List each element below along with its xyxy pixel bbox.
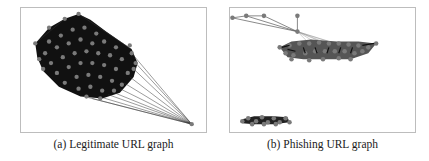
- phishing-graph-panel: [229, 7, 416, 133]
- legitimate-graph-panel: [20, 7, 207, 133]
- caption-phishing: (b) Phishing URL graph: [229, 138, 416, 150]
- legitimate-url-graph: [21, 8, 206, 132]
- phishing-url-graph: [230, 8, 415, 132]
- caption-legitimate: (a) Legitimate URL graph: [20, 138, 207, 150]
